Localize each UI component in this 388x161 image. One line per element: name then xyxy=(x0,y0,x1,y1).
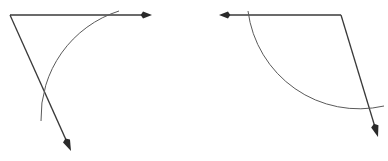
arrowhead-down-right-icon xyxy=(371,124,378,137)
slanted-ray-down-right xyxy=(10,15,68,145)
angle-diagram-right xyxy=(219,11,384,137)
arrowhead-right-icon xyxy=(141,12,152,19)
angle-diagram-left xyxy=(10,11,152,151)
angle-diagrams-canvas xyxy=(0,0,388,161)
arrowhead-left-icon xyxy=(219,12,230,19)
angle-arc-mark-right xyxy=(248,11,384,109)
arrowhead-down-right-icon xyxy=(63,138,71,151)
slanted-ray-down-right xyxy=(341,15,376,130)
angle-arc-mark-left xyxy=(41,11,119,121)
